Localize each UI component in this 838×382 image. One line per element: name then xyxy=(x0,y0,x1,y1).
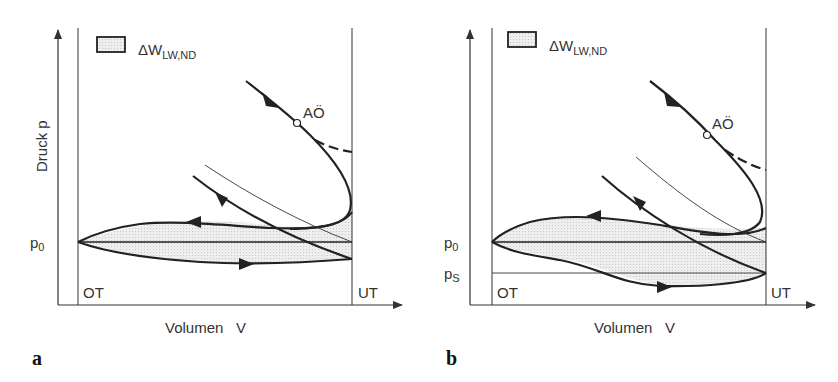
exhaust-open-point xyxy=(294,120,301,127)
exhaust-open-point xyxy=(704,132,711,139)
bdc-label: UT xyxy=(358,284,378,301)
panel-a: AÖ ΔWLW,ND Druck p p0 OT UT Volumen V a xyxy=(30,28,402,369)
tdc-label: OT xyxy=(83,284,104,301)
tdc-label: OT xyxy=(497,284,518,301)
legend-swatch xyxy=(508,32,536,47)
legend-swatch xyxy=(97,37,125,52)
expansion-curve xyxy=(246,81,351,229)
x-axis-label: Volumen V xyxy=(594,319,675,336)
p0-label: p0 xyxy=(30,234,44,253)
panel-letter: b xyxy=(446,347,457,369)
ideal-expansion-dashed xyxy=(725,150,766,170)
p0-label: p0 xyxy=(444,234,458,253)
legend-label: ΔWLW,ND xyxy=(138,41,196,61)
panel-b: AÖ ΔWLW,ND p0 pS OT UT Volumen V b xyxy=(444,28,815,369)
flow-arrow xyxy=(215,192,228,207)
panel-letter: a xyxy=(32,347,42,369)
work-area-fill xyxy=(492,217,766,286)
y-axis-label: Druck p xyxy=(33,120,50,172)
bdc-label: UT xyxy=(771,284,791,301)
point-label: AÖ xyxy=(303,104,325,121)
point-label: AÖ xyxy=(712,115,734,132)
x-axis-label: Volumen V xyxy=(165,319,246,336)
ps-label: pS xyxy=(444,265,460,284)
legend-label: ΔWLW,ND xyxy=(549,37,607,57)
work-area-fill xyxy=(78,212,352,264)
pv-diagram-figure: AÖ ΔWLW,ND Druck p p0 OT UT Volumen V a … xyxy=(0,0,838,382)
